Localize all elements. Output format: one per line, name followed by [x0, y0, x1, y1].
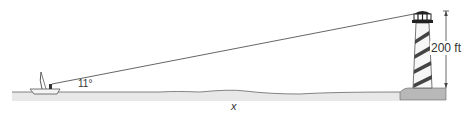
- angle-label: 11°: [78, 78, 92, 89]
- water: [12, 90, 400, 101]
- lighthouse: [400, 11, 446, 100]
- observer-icon: [49, 84, 52, 89]
- height-label: 200 ft: [430, 41, 462, 55]
- distance-label: x: [231, 100, 237, 112]
- line-of-sight: [52, 14, 414, 84]
